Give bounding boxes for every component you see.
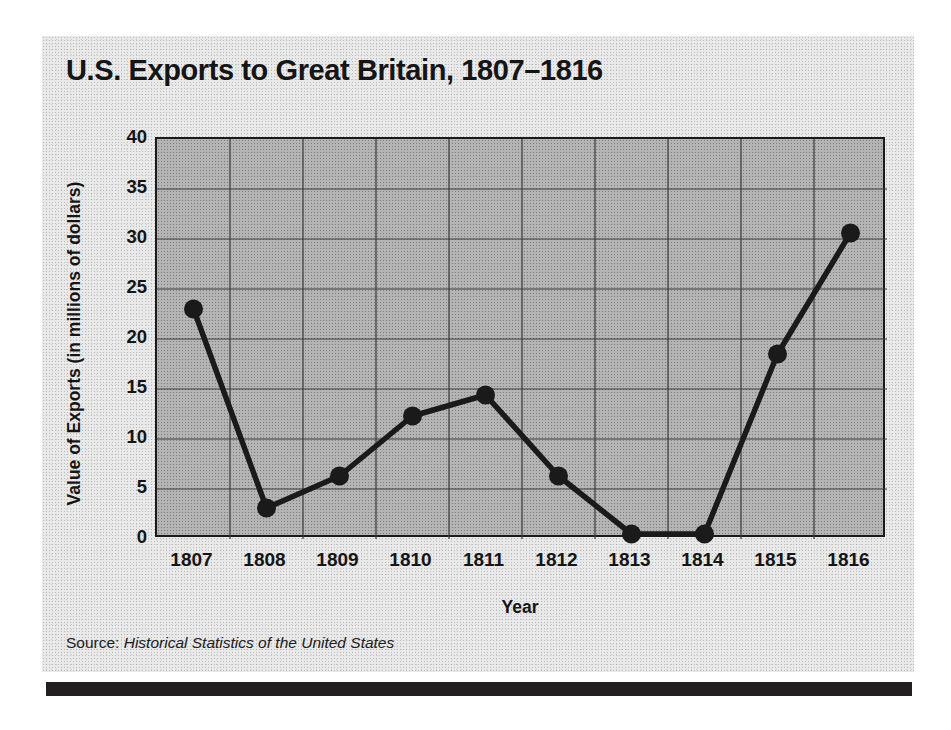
page-title: U.S. Exports to Great Britain, 1807–1816 — [66, 54, 603, 87]
bottom-rule — [46, 682, 912, 696]
chart-figure: U.S. Exports to Great Britain, 1807–1816… — [0, 0, 951, 730]
x-axis-title: Year — [155, 597, 885, 618]
y-tick-label: 10 — [101, 426, 147, 448]
source-prefix: Source: — [66, 634, 119, 651]
source-title: Historical Statistics of the United Stat… — [124, 634, 395, 651]
y-tick-label: 0 — [101, 526, 147, 548]
y-tick-label: 30 — [101, 226, 147, 248]
plot-svg — [157, 139, 887, 539]
y-axis-title: Value of Exports (in millions of dollars… — [64, 144, 85, 544]
data-point — [622, 525, 641, 544]
gridlines — [157, 139, 887, 539]
plot-area — [155, 137, 885, 537]
x-tick-label: 1816 — [804, 549, 894, 571]
data-point — [549, 467, 568, 486]
data-point — [841, 224, 860, 243]
y-tick-label: 20 — [101, 326, 147, 348]
data-point — [695, 525, 714, 544]
data-point — [184, 300, 203, 319]
y-tick-label: 40 — [101, 126, 147, 148]
source-note: Source: Historical Statistics of the Uni… — [66, 634, 394, 652]
data-point — [257, 499, 276, 518]
data-point — [403, 407, 422, 426]
y-tick-label: 5 — [101, 476, 147, 498]
y-tick-label: 25 — [101, 276, 147, 298]
y-tick-label: 15 — [101, 376, 147, 398]
data-point — [476, 386, 495, 405]
data-point — [768, 345, 787, 364]
y-tick-label: 35 — [101, 176, 147, 198]
data-point — [330, 467, 349, 486]
